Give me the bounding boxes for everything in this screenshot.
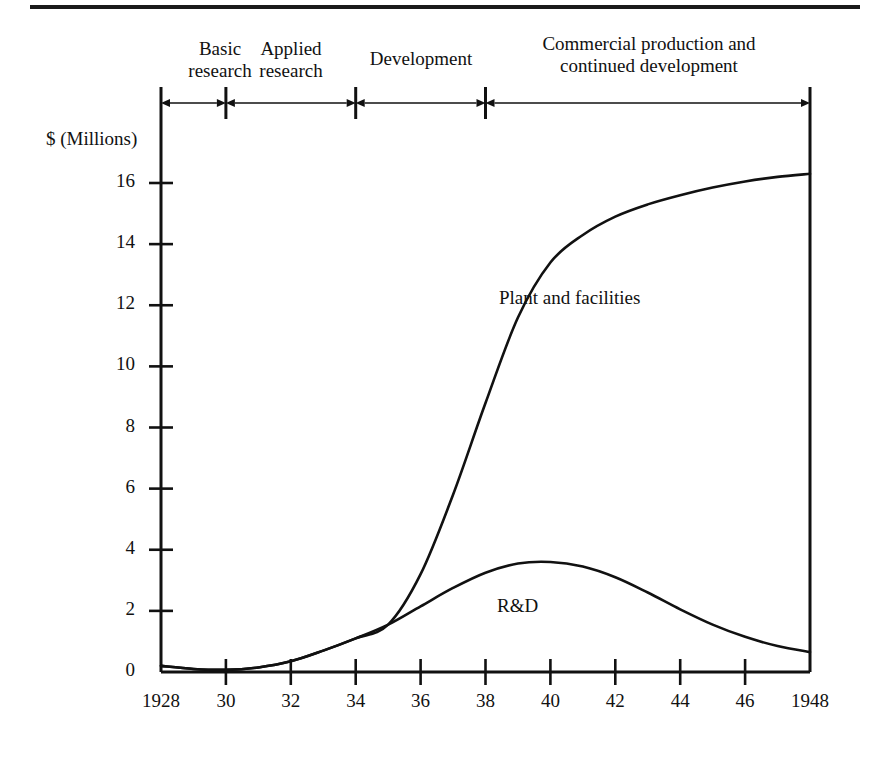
y-tick-label-16: 16 [95, 170, 135, 192]
x-tick-label-42: 42 [580, 690, 650, 712]
y-tick-label-2: 2 [95, 598, 135, 620]
x-tick-label-32: 32 [256, 690, 326, 712]
chart-series [161, 174, 810, 670]
chart-axes [149, 119, 810, 685]
y-tick-label-4: 4 [95, 537, 135, 559]
y-tick-label-8: 8 [95, 415, 135, 437]
chart-canvas [0, 0, 873, 758]
x-tick-label-38: 38 [451, 690, 521, 712]
y-tick-label-12: 12 [95, 292, 135, 314]
x-tick-label-44: 44 [645, 690, 715, 712]
x-tick-label-30: 30 [191, 690, 261, 712]
x-tick-label-40: 40 [515, 690, 585, 712]
x-tick-label-36: 36 [386, 690, 456, 712]
y-tick-label-14: 14 [95, 231, 135, 253]
x-tick-label-1928: 1928 [126, 690, 196, 712]
x-tick-label-1948: 1948 [775, 690, 845, 712]
series-curve-r-d [161, 562, 810, 670]
series-label-rd: R&D [497, 595, 538, 617]
x-tick-label-46: 46 [710, 690, 780, 712]
y-tick-label-6: 6 [95, 476, 135, 498]
phase-rule [161, 87, 810, 119]
x-tick-label-34: 34 [321, 690, 391, 712]
y-tick-label-0: 0 [95, 659, 135, 681]
y-tick-label-10: 10 [95, 353, 135, 375]
series-curve-plant-and-facilities [161, 174, 810, 670]
chart-figure: Basic research Applied research Developm… [0, 0, 873, 758]
series-label-plant-and-facilities: Plant and facilities [499, 287, 640, 309]
